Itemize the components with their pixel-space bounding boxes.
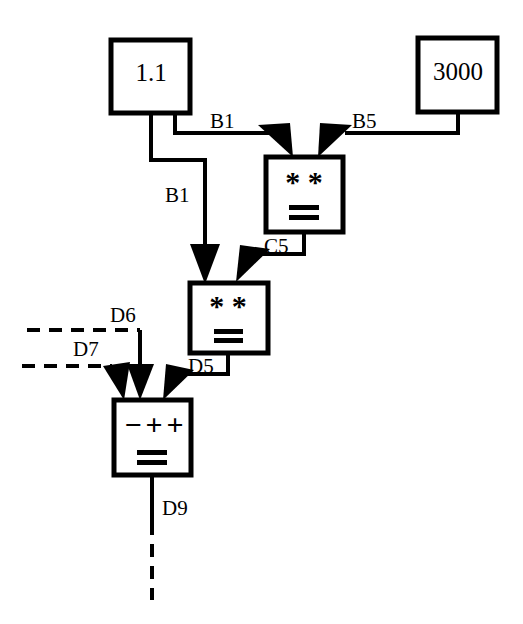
signal-flow-diagram: 1.1 3000 B1 B5 * * B1 C5 * * D5 [0,0,523,624]
multiply-node-2-equals-top [214,329,243,334]
edge-label-d5: D5 [188,354,214,378]
edge-label-d6: D6 [110,303,136,327]
edge-label-b1-right: B1 [210,109,235,133]
constant-box-1-1-value: 1.1 [135,59,166,86]
arrowhead-d7-into-sum [103,362,130,400]
sum-node-equals-bottom [137,460,167,465]
edge-label-d7: D7 [73,337,99,361]
arrowhead-b1-into-multiply-2 [190,244,220,284]
arrowhead-b5-into-multiply-1 [318,123,352,157]
constant-box-3000-value: 3000 [433,58,483,85]
sum-node-equals-top [137,450,167,455]
edge-label-b1-down: B1 [165,183,190,207]
sum-node-operator-plus-1: + [145,408,162,441]
multiply-node-1-operator: * * [285,165,323,198]
multiply-node-2-equals-bottom [214,338,243,343]
sum-node-operator-plus-2: + [166,408,183,441]
diagram-canvas: 1.1 3000 B1 B5 * * B1 C5 * * D5 [0,0,523,624]
edge-label-b5: B5 [352,109,377,133]
multiply-node-1-equals-bottom [289,215,319,220]
arrowhead-b1-into-multiply-1 [258,123,293,157]
sum-node-operator-minus: − [124,408,141,441]
edge-label-d9: D9 [162,496,188,520]
multiply-node-2-operator: * * [209,289,247,322]
arrowhead-d6-into-sum [127,364,154,400]
multiply-node-1-equals-top [289,205,319,210]
edge-label-c5: C5 [264,234,289,258]
